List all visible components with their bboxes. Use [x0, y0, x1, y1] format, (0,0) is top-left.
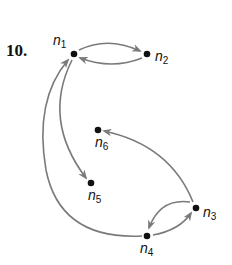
edge-n4-n1 [43, 60, 142, 236]
edge-n3-n4 [149, 202, 190, 228]
node-n6 [95, 127, 102, 134]
label-n5: n5 [88, 187, 102, 205]
node-n1 [71, 51, 78, 58]
label-n2: n2 [155, 48, 169, 66]
problem-number: 10. [6, 41, 27, 60]
digraph-figure: 10. n1 n2 n3 n [0, 0, 232, 265]
node-labels: n1 n2 n3 n4 n5 n6 [53, 32, 217, 258]
node-n3 [193, 205, 200, 212]
edge-n3-n6 [104, 131, 193, 202]
node-n4 [144, 233, 151, 240]
nodes [71, 51, 200, 240]
edge-n1-n5 [60, 60, 86, 178]
label-n4: n4 [140, 240, 154, 258]
label-n6: n6 [95, 134, 109, 152]
label-n3: n3 [203, 204, 217, 222]
label-n1: n1 [53, 32, 67, 50]
edge-n2-n1 [80, 58, 142, 64]
edges [43, 43, 193, 236]
node-n2 [144, 51, 151, 58]
node-n5 [88, 180, 95, 187]
edge-n1-n2 [79, 43, 140, 51]
edge-n4-n3 [153, 213, 191, 235]
graph-canvas: 10. n1 n2 n3 n [0, 0, 232, 265]
